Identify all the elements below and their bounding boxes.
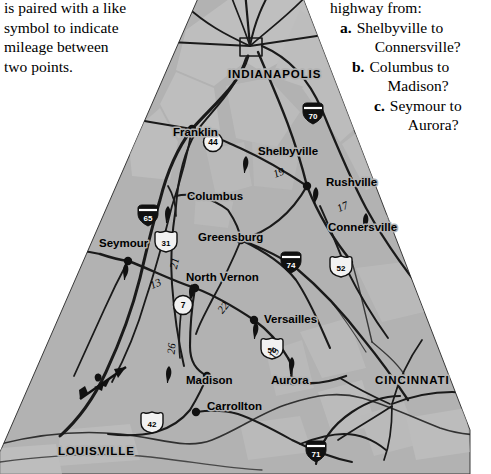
question-item-b: b. Columbus to Madison? <box>352 57 488 96</box>
question-list: highway from: a. Shelbyville to Connersv… <box>330 0 488 135</box>
major-city-label-cincinnati: CINCINNATI <box>375 374 450 386</box>
question-label-a: a. <box>340 18 357 57</box>
city-label-greensburg: Greensburg <box>198 231 263 243</box>
major-city-label-indianapolis: INDIANAPOLIS <box>228 68 321 80</box>
question-b-line1: Columbus to <box>370 58 450 75</box>
question-text-c: Seymour to Aurora? <box>390 96 488 135</box>
city-dot <box>250 316 258 324</box>
shield-number: 52 <box>337 264 346 273</box>
shield-number: 70 <box>309 112 318 121</box>
shield-number: 42 <box>148 420 157 429</box>
city-label-seymour: Seymour <box>99 237 149 249</box>
intro-paragraph: is paired with a like symbol to indicate… <box>4 0 184 76</box>
shield-number: 44 <box>208 137 218 147</box>
route-shield-52: 52 <box>330 256 352 277</box>
map-page: 7065747131525042447 19172113222615 Frank… <box>0 0 491 474</box>
city-dot <box>192 408 200 416</box>
route-shield-31: 31 <box>155 231 177 252</box>
city-label-north-vernon: North Vernon <box>186 271 259 283</box>
city-label-franklin: Franklin <box>173 126 218 138</box>
shield-number: 31 <box>162 239 171 248</box>
intro-line-4: two points. <box>4 57 184 77</box>
question-text-a: Shelbyville to Connersville? <box>357 18 488 57</box>
city-label-shelbyville: Shelbyville <box>258 145 318 157</box>
shield-number: 71 <box>312 450 321 459</box>
shield-number: 7 <box>181 300 186 310</box>
question-c-line1: Seymour to <box>390 97 462 114</box>
intro-line-1: is paired with a like <box>4 0 184 18</box>
city-label-rushville: Rushville <box>326 176 377 188</box>
question-c-line2: Aurora? <box>390 115 488 135</box>
question-a-line2: Connersville? <box>357 37 488 57</box>
city-label-carrollton: Carrollton <box>207 400 262 412</box>
route-shield-42: 42 <box>141 412 163 433</box>
question-label-b: b. <box>352 57 370 96</box>
city-dot <box>124 257 132 265</box>
major-city-label-louisville: LOUISVILLE <box>58 445 135 457</box>
shield-number: 65 <box>144 214 153 223</box>
question-text-b: Columbus to Madison? <box>370 57 489 96</box>
city-label-madison: Madison <box>186 374 233 386</box>
city-label-columbus: Columbus <box>187 190 243 202</box>
question-label-c: c. <box>374 96 390 135</box>
route-shield-7: 7 <box>174 296 193 315</box>
city-label-connersville: Connersville <box>328 221 397 233</box>
question-item-a: a. Shelbyville to Connersville? <box>340 18 488 57</box>
city-dot <box>303 182 311 190</box>
question-item-c: c. Seymour to Aurora? <box>374 96 488 135</box>
mileage-label: 26 <box>164 342 177 355</box>
intro-line-3: mileage between <box>4 37 184 57</box>
city-label-aurora: Aurora <box>271 374 309 386</box>
shield-number: 74 <box>287 261 296 270</box>
question-b-line2: Madison? <box>370 76 489 96</box>
question-a-line1: Shelbyville to <box>357 19 444 36</box>
intro-line-2: symbol to indicate <box>4 18 184 38</box>
city-label-versailles: Versailles <box>264 313 317 325</box>
question-lead: highway from: <box>330 0 488 18</box>
